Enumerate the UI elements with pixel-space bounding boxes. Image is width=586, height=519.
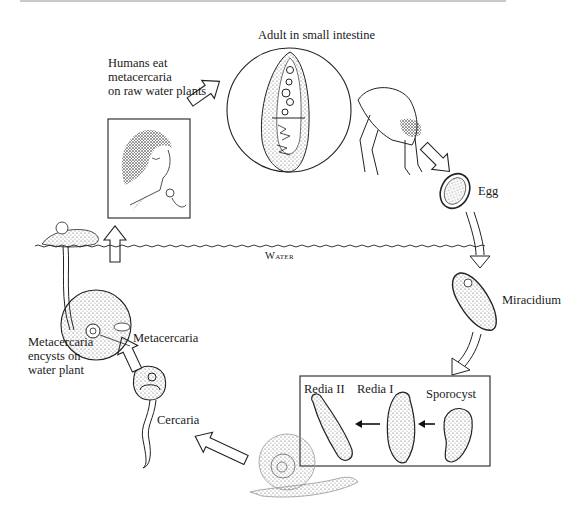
human-eating-illustration [108,119,190,218]
water-label: Water [265,250,294,261]
arrow-egg-to-miracidium [466,212,490,268]
miracidium-illustration [453,273,497,330]
humans-eat-label-line3: on raw water plants [108,84,206,98]
encysts-label-line1: Metacercaria [28,335,93,349]
encysts-label-line3: water plant [28,363,84,377]
metacercaria-label: Metacercaria [133,331,198,345]
redia2-label: Redia II [304,382,345,396]
humans-eat-label-line2: metacercaria [108,70,172,84]
egg-label: Egg [478,184,498,198]
redia1-organism [387,392,414,463]
adult-fluke-circle [227,48,351,172]
arrow-snail-to-cercaria [191,426,251,470]
miracidium-label: Miracidium [502,293,561,307]
sporocyst-label: Sporocyst [426,387,476,401]
adult-label: Adult in small intestine [258,28,375,42]
arrow-plant-to-human [104,226,126,262]
encysts-label-line2: encysts on [28,349,80,363]
egg-illustration [435,169,476,213]
arrow-miracidium-to-sporocyst [452,332,481,375]
cercaria-label: Cercaria [157,413,199,427]
water-surface-line [35,245,485,247]
humans-eat-label-line1: Humans eat [108,56,167,70]
arrow-to-egg [416,138,457,179]
redia1-label: Redia I [357,382,393,396]
defecating-human-illustration [358,88,422,175]
